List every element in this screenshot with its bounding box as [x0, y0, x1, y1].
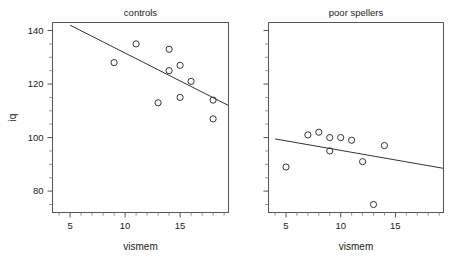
panel-title-controls: controls: [124, 7, 158, 18]
y-axis-label: iq: [7, 114, 18, 122]
plot-frame: [269, 23, 444, 213]
regression-line: [275, 139, 443, 168]
regression-line: [70, 25, 228, 105]
figure-root: controls51015vismem80100120140iqpoor spe…: [0, 0, 455, 264]
x-axis-tick-label: 10: [335, 220, 346, 231]
data-point: [166, 46, 172, 52]
data-point: [283, 164, 289, 170]
data-point: [316, 129, 322, 135]
panel-contents: [275, 129, 443, 207]
x-axis-tick-label: 15: [390, 220, 401, 231]
x-axis-tick-label: 5: [283, 220, 288, 231]
y-axis-tick-label: 120: [28, 78, 44, 89]
data-point: [155, 100, 161, 106]
data-point: [166, 68, 172, 74]
panel-contents: [70, 25, 228, 122]
data-point: [381, 142, 387, 148]
x-axis-label: vismem: [123, 241, 157, 252]
x-axis-label: vismem: [339, 241, 373, 252]
x-axis-tick-label: 15: [175, 220, 186, 231]
y-axis-tick-label: 140: [28, 25, 44, 36]
panel-poor-spellers: poor spellers51015vismem: [264, 7, 444, 252]
y-axis-tick-label: 80: [33, 185, 44, 196]
data-point: [177, 94, 183, 100]
data-point: [327, 134, 333, 140]
data-point: [188, 78, 194, 84]
data-point: [359, 159, 365, 165]
data-point: [349, 137, 355, 143]
data-point: [133, 41, 139, 47]
data-point: [370, 201, 376, 207]
plot-frame: [53, 23, 229, 213]
data-point: [111, 60, 117, 66]
scatter-plot-figure: controls51015vismem80100120140iqpoor spe…: [0, 0, 455, 264]
data-point: [177, 62, 183, 68]
panel-controls: controls51015vismem80100120140iq: [7, 7, 229, 252]
x-axis-tick-label: 5: [67, 220, 72, 231]
x-axis-tick-label: 10: [120, 220, 131, 231]
data-point: [210, 116, 216, 122]
panel-title-poor-spellers: poor spellers: [329, 7, 384, 18]
data-point: [338, 134, 344, 140]
data-point: [305, 132, 311, 138]
y-axis-tick-label: 100: [28, 132, 44, 143]
